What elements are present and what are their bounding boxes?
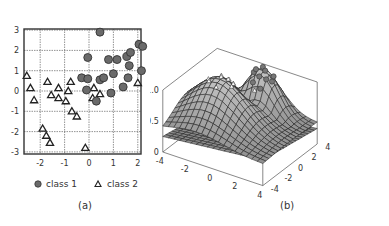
surface-panel: 00.51.0-4-2024-4-2024 (b)	[150, 0, 389, 226]
class1-circle-marker	[113, 56, 121, 64]
class1-circle-marker	[83, 86, 91, 94]
class2-triangle-marker	[67, 78, 74, 84]
class1-circle-marker	[84, 75, 92, 83]
y-tick-label: -4	[271, 185, 279, 194]
y-tick-label: 2	[14, 46, 19, 55]
class1-circle-marker	[109, 70, 117, 78]
panel-a-caption: (a)	[78, 200, 92, 211]
y-tick-label: 1	[14, 67, 19, 76]
class2-triangle-marker	[65, 87, 72, 93]
class1-circle-marker	[264, 77, 269, 82]
class1-circle-marker	[269, 79, 274, 84]
class2-triangle-marker	[44, 78, 51, 84]
panel-b-caption: (b)	[280, 200, 294, 211]
class1-circle-marker	[92, 97, 100, 105]
z-tick-label: 0	[154, 148, 159, 157]
y-tick-label: 4	[325, 143, 330, 152]
legend-triangle-icon	[95, 181, 101, 187]
data-points	[23, 28, 146, 150]
y-tick-label: 0	[14, 87, 19, 96]
x-tick-label: 4	[257, 191, 262, 200]
y-tick-label: -1	[11, 107, 19, 116]
y-tick-label: 2	[312, 153, 317, 162]
class1-circle-marker	[271, 74, 276, 79]
class1-circle-marker	[100, 74, 108, 82]
x-tick-label: -2	[181, 165, 189, 174]
surface-3d-plot: 00.51.0-4-2024-4-2024	[150, 0, 389, 226]
legend-label-class2: class 2	[107, 179, 138, 189]
class1-circle-marker	[107, 89, 115, 97]
scatter-plot: -2-10123210-1-2-3class 1class 2	[0, 0, 160, 226]
class2-triangle-marker	[55, 95, 62, 101]
class1-circle-marker	[119, 83, 127, 91]
class2-triangle-marker	[43, 132, 50, 138]
class2-triangle-marker	[31, 97, 38, 103]
class2-triangle-marker	[90, 84, 97, 90]
class1-circle-marker	[137, 67, 145, 75]
x-tick-label: 2	[232, 182, 237, 191]
legend-label-class1: class 1	[46, 179, 77, 189]
x-tick-label: -4	[156, 157, 164, 166]
class2-triangle-marker	[39, 125, 46, 131]
z-tick-label: 0.5	[150, 117, 159, 126]
legend-circle-icon	[35, 181, 41, 187]
x-tick-label: 2	[135, 159, 140, 168]
class2-triangle-marker	[62, 98, 69, 104]
class2-triangle-marker	[68, 108, 75, 114]
class1-circle-marker	[263, 68, 268, 73]
y-tick-label: -3	[11, 148, 19, 157]
y-tick-label: 3	[14, 26, 19, 35]
class2-triangle-marker	[96, 90, 103, 96]
y-tick-label: -2	[284, 174, 292, 183]
y-tick-label: -2	[11, 128, 19, 137]
legend: class 1class 2	[35, 179, 138, 189]
x-tick-label: -1	[61, 159, 69, 168]
upper-surface	[163, 69, 317, 164]
class1-circle-marker	[258, 86, 263, 91]
x-tick-label: 0	[207, 174, 212, 183]
class1-circle-marker	[125, 62, 133, 70]
class2-triangle-marker	[27, 84, 34, 90]
class1-circle-marker	[124, 74, 132, 82]
class1-circle-marker	[84, 54, 92, 62]
scatter-panel: -2-10123210-1-2-3class 1class 2 (a)	[0, 0, 160, 226]
class2-triangle-marker	[55, 84, 62, 90]
x-tick-label: 0	[86, 159, 91, 168]
z-tick-label: 1.0	[150, 86, 159, 95]
class2-triangle-marker	[46, 139, 53, 145]
class1-circle-marker	[139, 42, 147, 50]
class2-triangle-marker	[82, 144, 89, 150]
class1-circle-marker	[105, 56, 113, 64]
class1-circle-marker	[250, 80, 255, 85]
class1-circle-marker	[253, 67, 258, 72]
y-tick-label: 0	[298, 164, 303, 173]
x-tick-label: -2	[36, 159, 44, 168]
class1-circle-marker	[257, 74, 262, 79]
class1-circle-marker	[96, 28, 104, 36]
class1-circle-marker	[126, 48, 134, 56]
class2-triangle-marker	[48, 91, 55, 97]
x-tick-label: 1	[111, 159, 116, 168]
